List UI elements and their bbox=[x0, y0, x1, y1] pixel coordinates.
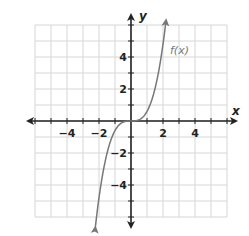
x-tick-label: −2 bbox=[91, 127, 108, 140]
x-tick-label: 2 bbox=[159, 127, 167, 140]
coordinate-plane: −4 −2 2 4 4 2 −2 −4 x y f(x) bbox=[0, 0, 249, 236]
y-tick-label: 4 bbox=[119, 51, 127, 64]
x-tick-label: 4 bbox=[191, 127, 199, 140]
x-axis-label: x bbox=[231, 104, 241, 118]
y-axis-label: y bbox=[139, 9, 148, 23]
x-tick-label: −4 bbox=[59, 127, 76, 140]
y-tick-label: −4 bbox=[110, 179, 127, 192]
function-label: f(x) bbox=[170, 44, 189, 57]
y-tick-label: 2 bbox=[119, 83, 127, 96]
y-tick-label: −2 bbox=[110, 147, 127, 160]
